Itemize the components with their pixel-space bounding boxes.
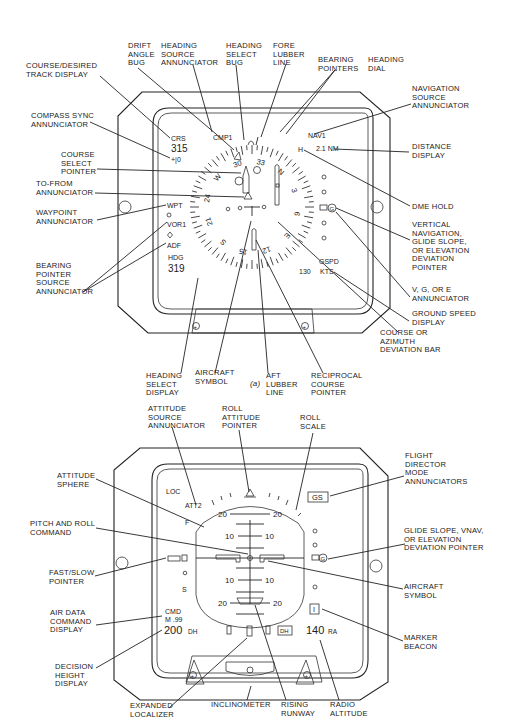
- callout-glide-slope-vnav: GLIDE SLOPE, VNAV,OR ELEVATIONDEVIATION …: [404, 526, 484, 552]
- avionics-diagram: + + 3033N36E1215S2124W CRS 315 +|0 CMP1 …: [0, 0, 508, 718]
- svg-text:G: G: [330, 206, 335, 212]
- aircraft-symbol-a: [244, 206, 260, 216]
- aircraft-symbol-right: [260, 555, 284, 562]
- adi-figure: 20 20 10 10 10 10 20 20 LOC ATT2 F: [30, 404, 484, 718]
- ra-value: 140: [306, 624, 324, 636]
- callout-waypoint-annunciator: WAYPOINTANNUNCIATOR: [36, 208, 94, 226]
- inclinometer: [226, 662, 274, 676]
- hdg-label: HDG: [168, 254, 184, 261]
- svg-text:20: 20: [273, 510, 282, 519]
- callout-heading-select-display: HEADINGSELECTDISPLAY: [146, 371, 182, 397]
- distance-value: 2.1 NM: [316, 145, 339, 152]
- callout-course-select-pointer: COURSESELECTPOINTER: [61, 150, 96, 176]
- callout-course-desired-track-display: COURSE/DESIREDTRACK DISPLAY: [26, 61, 97, 79]
- gspd-label: GSPD: [319, 258, 339, 265]
- callout-course-azimuth-deviation-bar: COURSE ORAZIMUTHDEVIATION BAR: [380, 328, 441, 354]
- hsi-window: [153, 108, 373, 314]
- svg-text:G: G: [321, 556, 326, 562]
- fast-slow-pointer: [168, 556, 180, 561]
- aircraft-symbol-left: [216, 555, 240, 562]
- air-data-command-value: M .99: [165, 616, 183, 623]
- callout-dme-hold: DME HOLD: [412, 202, 454, 211]
- callout-fast-slow-pointer: FAST/SLOWPOINTER: [49, 568, 95, 586]
- callout-roll-attitude-pointer: ROLLATTITUDEPOINTER: [222, 404, 260, 430]
- reciprocal-course-pointer: [252, 229, 256, 251]
- svg-text:20: 20: [273, 599, 282, 608]
- dh-value: 200: [164, 624, 182, 636]
- vor-annunciator: VOR1: [167, 221, 186, 228]
- callout-expanded-localizer: EXPANDEDLOCALIZER: [130, 701, 174, 718]
- callout-heading-dial: HEADINGDIAL: [368, 55, 404, 73]
- callout-attitude-sphere: ATTITUDESPHERE: [57, 471, 95, 489]
- svg-text:10: 10: [265, 532, 274, 541]
- callout-fore-lubber-line: FORELUBBERLINE: [273, 41, 305, 67]
- att-source: ATT2: [185, 502, 202, 509]
- callout-drift-angle-bug: DRIFTANGLEBUG: [128, 41, 155, 67]
- crs-label: CRS: [171, 135, 186, 142]
- svg-text:+: +: [303, 324, 307, 330]
- callout-vertical-navigation: VERTICALNAVIGATION,GLIDE SLOPE,OR ELEVAT…: [412, 220, 469, 272]
- dial-label: 21: [203, 216, 214, 227]
- callout-pitch-and-roll-command: PITCH AND ROLLCOMMAND: [30, 519, 95, 537]
- heading-select-bug: [248, 141, 254, 145]
- callout-distance-display: DISTANCEDISPLAY: [412, 142, 451, 160]
- loc-annunciator: LOC: [166, 488, 180, 495]
- dial-label: 33: [256, 157, 266, 167]
- svg-text:+: +: [194, 324, 198, 330]
- callout-air-data-command-display: AIR DATACOMMANDDISPLAY: [50, 608, 92, 634]
- adi-callouts: ATTITUDESOURCEANNUNCIATORROLLATTITUDEPOI…: [30, 404, 484, 718]
- callout-bearing-pointer-source-annunciator: BEARINGPOINTERSOURCEANNUNCIATOR: [36, 261, 94, 296]
- svg-text:GS: GS: [312, 493, 323, 502]
- dial-label: N: [276, 167, 286, 177]
- hdg-value: 319: [168, 263, 185, 274]
- callout-bearing-pointers: BEARINGPOINTERS: [318, 55, 358, 73]
- callout-aircraft-symbol: AIRCRAFTSYMBOL: [195, 368, 235, 386]
- dh-unit: DH: [188, 628, 198, 635]
- callout-marker-beacon: MARKERBEACON: [404, 633, 438, 651]
- wpt-annunciator: WPT: [167, 202, 183, 209]
- adf-annunciator: ADF: [167, 242, 181, 249]
- svg-text:+: +: [305, 673, 309, 679]
- svg-text:10: 10: [225, 576, 234, 585]
- roll-attitude-pointer: [246, 489, 254, 496]
- mount-hole-left: [119, 201, 131, 213]
- compass-sync: +|0: [171, 156, 181, 164]
- dial-label: E: [282, 231, 292, 241]
- crs-value: 315: [171, 143, 188, 154]
- callout-compass-sync-annunciator: COMPASS SYNCANNUNCIATOR: [31, 111, 94, 129]
- callout-heading-source-annunciator: HEADINGSOURCEANNUNCIATOR: [161, 41, 219, 67]
- callout-ground-speed-display: GROUND SPEEDDISPLAY: [412, 309, 476, 327]
- dial-label: 3: [289, 187, 299, 194]
- bearing-pointer-head: [254, 167, 261, 174]
- dial-label: 24: [202, 193, 212, 203]
- callout-attitude-source-annunciator: ATTITUDESOURCEANNUNCIATOR: [148, 404, 206, 430]
- callout-flight-director-mode-annunciators: FLIGHTDIRECTORMODEANNUNCIATORS: [405, 451, 467, 486]
- callout-roll-scale: ROLLSCALE: [300, 413, 326, 431]
- svg-text:I: I: [313, 606, 315, 613]
- svg-text:10: 10: [265, 576, 274, 585]
- callout-vge-annunciator: V, G, OR EANNUNCIATOR: [412, 285, 470, 303]
- callout-rising-runway: RISINGRUNWAY: [281, 700, 315, 718]
- callout-heading-select-bug: HEADINGSELECTBUG: [226, 41, 262, 67]
- ra-unit: RA: [328, 628, 338, 635]
- hsi-callouts: COURSE/DESIREDTRACK DISPLAYDRIFTANGLEBUG…: [26, 41, 476, 397]
- dme-hold-h: H: [298, 146, 303, 153]
- callout-decision-height-display: DECISIONHEIGHTDISPLAY: [55, 662, 93, 688]
- dial-label: 6: [292, 211, 302, 217]
- figure-caption-a: (a): [250, 379, 261, 388]
- callout-aft-lubber-line: AFTLUBBERLINE: [266, 371, 298, 397]
- course-select-pointer: [243, 166, 249, 193]
- callout-inclinometer: INCLINOMETER: [211, 700, 271, 709]
- cmd-label: CMD: [165, 608, 181, 615]
- svg-text:+: +: [191, 673, 195, 679]
- callout-aircraft-symbol-b: AIRCRAFTSYMBOL: [404, 582, 444, 600]
- callout-to-from-annunciator: TO-FROMANNUNCIATOR: [36, 179, 94, 197]
- svg-text:10: 10: [225, 532, 234, 541]
- hsi-figure: + + 3033N36E1215S2124W CRS 315 +|0 CMP1 …: [26, 41, 476, 397]
- dial-label: S: [218, 237, 228, 247]
- speed-slow: S: [182, 586, 187, 593]
- svg-text:DH: DH: [280, 628, 289, 634]
- hsi-leader-lines: [83, 64, 411, 373]
- dial-label: W: [212, 171, 224, 183]
- callout-radio-altitude: RADIOALTITUDE: [330, 700, 368, 718]
